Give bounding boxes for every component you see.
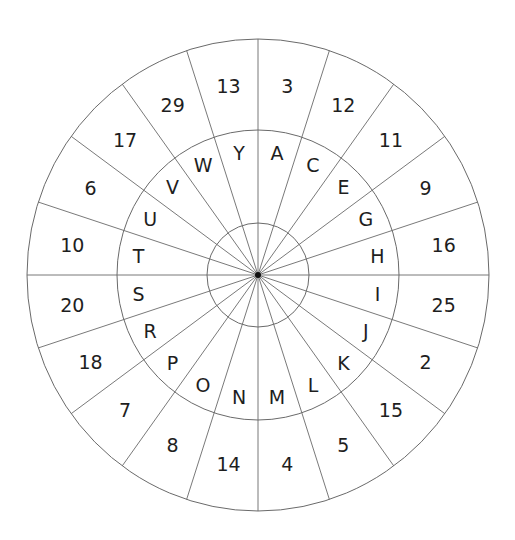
inner-letter: U [143, 208, 157, 230]
inner-letter: M [269, 386, 285, 408]
inner-letter: I [375, 283, 381, 305]
inner-letter: P [167, 352, 178, 374]
spoke-line [71, 136, 258, 275]
outer-number: 25 [432, 294, 456, 316]
inner-letter: H [370, 245, 384, 267]
inner-letter: V [166, 176, 179, 198]
center-dot [255, 272, 261, 278]
inner-letter: W [194, 154, 213, 176]
outer-number: 16 [432, 234, 456, 256]
outer-number: 8 [167, 434, 179, 456]
inner-letter: T [132, 245, 145, 267]
spoke-line [258, 275, 445, 414]
outer-number: 6 [84, 177, 96, 199]
outer-number: 12 [331, 94, 355, 116]
spoke-line [258, 275, 394, 466]
inner-letter: N [232, 386, 246, 408]
outer-number: 20 [60, 294, 84, 316]
inner-letter: Y [232, 142, 245, 164]
inner-letter: R [144, 320, 157, 342]
outer-number: 7 [119, 399, 131, 421]
spoke-line [258, 136, 445, 275]
outer-number: 13 [216, 75, 240, 97]
outer-number: 5 [337, 434, 349, 456]
cipher-wheel: 31211916252155414871820106172913 ACEGHIJ… [0, 0, 515, 540]
outer-number: 4 [281, 453, 293, 475]
outer-number: 9 [419, 177, 431, 199]
inner-letter: O [196, 374, 211, 396]
inner-letter: K [337, 352, 350, 374]
inner-letter: J [362, 320, 369, 342]
inner-letter: A [270, 142, 283, 164]
outer-number: 10 [60, 234, 84, 256]
outer-number: 18 [78, 351, 102, 373]
outer-number: 15 [379, 399, 403, 421]
spoke-line [71, 275, 258, 414]
outer-number: 2 [419, 351, 431, 373]
inner-letter: S [132, 283, 144, 305]
outer-number: 17 [113, 129, 137, 151]
outer-number: 14 [216, 453, 240, 475]
inner-letter: G [358, 208, 373, 230]
outer-number: 3 [281, 75, 293, 97]
outer-number: 11 [379, 129, 403, 151]
inner-letter: C [306, 154, 319, 176]
inner-letter: E [338, 176, 350, 198]
outer-number: 29 [161, 94, 185, 116]
inner-letter: L [308, 374, 319, 396]
